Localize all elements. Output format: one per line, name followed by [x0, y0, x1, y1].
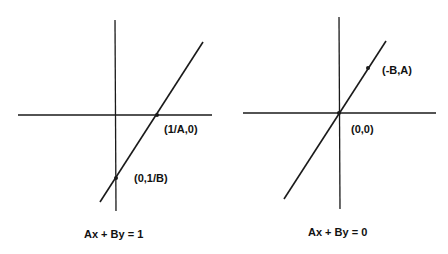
diagram-left: [18, 20, 212, 211]
point-origin: [337, 111, 341, 115]
point-neg-b-a: [366, 66, 370, 70]
equation-left: Ax + By = 1: [84, 228, 143, 240]
line-diagrams: [0, 0, 448, 254]
label-origin: (0,0): [351, 123, 374, 135]
point-y-intercept: [114, 176, 118, 180]
label-x-intercept: (1/A,0): [164, 123, 198, 135]
label-y-intercept: (0,1/B): [134, 172, 168, 184]
line-ax-by-0: [284, 41, 386, 199]
equation-right: Ax + By = 0: [308, 226, 367, 238]
y-axis: [115, 20, 116, 211]
point-x-intercept: [155, 113, 159, 117]
label-neg-b-a: (-B,A): [382, 64, 412, 76]
